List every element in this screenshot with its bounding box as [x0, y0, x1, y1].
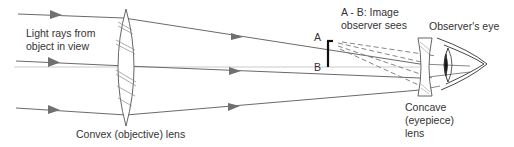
arrowhead-icons	[228, 33, 243, 111]
convex-lens-icon	[116, 9, 136, 126]
point-b-label: B	[314, 61, 321, 74]
eyepiece-label-line2: (eyepiece)	[405, 114, 454, 127]
refracted-rays	[124, 18, 420, 115]
concave-lens-icon	[418, 38, 432, 96]
eye-icon	[437, 38, 487, 90]
image-label: A - B: Image observer sees	[341, 6, 407, 32]
eyepiece-lens-label: Concave (eyepiece) lens	[405, 101, 454, 140]
objective-lens-label: Convex (objective) lens	[76, 128, 185, 141]
arrowhead-icons	[48, 10, 62, 114]
image-label-line2: observer sees	[341, 19, 407, 32]
light-rays-label-line2: object in view	[26, 40, 95, 53]
observer-eye-label: Observer's eye	[429, 20, 499, 33]
light-rays-label-line1: Light rays from	[26, 27, 95, 40]
telescope-diagram: Light rays from object in view Convex (o…	[0, 0, 514, 147]
eyepiece-label-line3: lens	[405, 127, 454, 140]
eyepiece-label-line1: Concave	[405, 101, 454, 114]
point-a-label: A	[314, 31, 321, 44]
light-rays-label: Light rays from object in view	[26, 27, 95, 53]
image-label-line1: A - B: Image	[341, 6, 407, 19]
image-ab-bar	[327, 41, 333, 67]
